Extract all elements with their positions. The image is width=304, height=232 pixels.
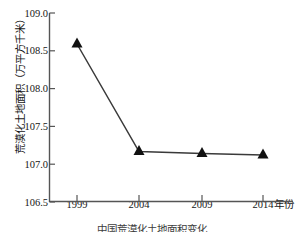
data-point-2004	[134, 145, 145, 155]
data-point-2009	[197, 147, 208, 157]
data-point-1999	[72, 38, 83, 48]
data-point-2014	[258, 149, 269, 159]
y-axis-ticks	[50, 13, 56, 202]
figure-caption: 中国荒漠化土地面积变化	[0, 224, 304, 232]
data-markers	[72, 38, 269, 159]
plot-area	[0, 0, 304, 232]
x-axis-ticks	[77, 195, 263, 202]
data-line	[77, 44, 263, 155]
chart-figure: 荒漠化土地面积（万平方千米） 109.0 108.5 108.0 107.5 1…	[0, 0, 304, 232]
